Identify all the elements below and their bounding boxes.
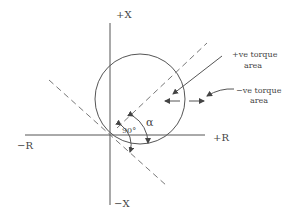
ninety-degree-label: 90° xyxy=(122,126,136,135)
zero-torque-dashed-line xyxy=(49,80,167,186)
pos-r-label: +R xyxy=(213,132,229,143)
pos-torque-label-line1: +ve torque xyxy=(232,50,278,59)
pos-torque-label-line2: area xyxy=(244,61,262,70)
neg-x-label: −X xyxy=(114,198,130,209)
neg-torque-pointer-arrow xyxy=(207,89,234,96)
neg-r-label: −R xyxy=(17,140,33,151)
neg-torque-label-line2: area xyxy=(250,96,268,105)
alpha-label: α xyxy=(146,116,154,129)
pos-torque-pointer-arrow xyxy=(173,56,222,94)
neg-torque-label-line1: −ve torque xyxy=(236,86,282,95)
pos-x-label: +X xyxy=(116,9,132,20)
max-torque-dashed-line xyxy=(117,43,207,128)
mho-circle xyxy=(95,54,185,144)
mho-relay-characteristic-diagram: +X −X −R +R α 90° +ve torque area −ve to… xyxy=(0,0,296,216)
